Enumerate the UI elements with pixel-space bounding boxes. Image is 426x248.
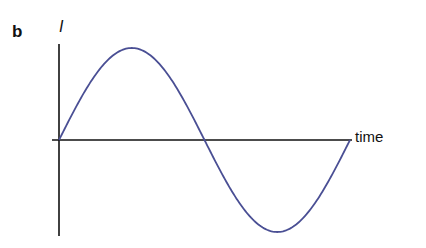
sine-diagram xyxy=(0,0,426,248)
